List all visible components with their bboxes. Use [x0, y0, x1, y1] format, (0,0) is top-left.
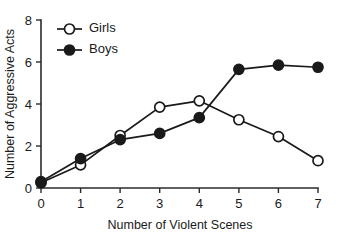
line-chart: 0 2 4 6 8 0 1 2 3 4 5 6 7 Numbe — [0, 0, 342, 238]
x-tick-label-7: 7 — [314, 196, 321, 211]
chart-canvas: 0 2 4 6 8 0 1 2 3 4 5 6 7 Numbe — [0, 0, 342, 238]
data-point-boys-2[interactable] — [115, 135, 125, 145]
chart-legend: Girls Boys — [57, 20, 118, 56]
y-axis-tick-labels: 0 2 4 6 8 — [25, 13, 32, 196]
data-point-boys-3[interactable] — [155, 128, 165, 138]
data-point-girls-6[interactable] — [273, 132, 283, 142]
legend-item-boys[interactable]: Boys — [57, 41, 118, 56]
data-point-girls-4[interactable] — [194, 96, 204, 106]
legend-label-boys: Boys — [89, 41, 118, 56]
data-point-girls-5[interactable] — [234, 115, 244, 125]
x-tick-label-2: 2 — [116, 196, 123, 211]
y-tick-label-6: 6 — [25, 55, 32, 70]
data-point-boys-6[interactable] — [273, 60, 283, 70]
legend-marker-filled-circle-icon — [65, 45, 75, 55]
data-point-boys-4[interactable] — [194, 113, 204, 123]
data-point-boys-7[interactable] — [313, 62, 323, 72]
x-tick-label-1: 1 — [77, 196, 84, 211]
data-point-girls-7[interactable] — [313, 156, 323, 166]
x-tick-label-3: 3 — [156, 196, 163, 211]
series-layer — [36, 60, 323, 188]
x-tick-label-6: 6 — [275, 196, 282, 211]
y-tick-label-8: 8 — [25, 13, 32, 28]
data-point-boys-5[interactable] — [234, 64, 244, 74]
x-tick-label-0: 0 — [37, 196, 44, 211]
y-tick-label-4: 4 — [25, 97, 32, 112]
legend-item-girls[interactable]: Girls — [57, 20, 116, 35]
legend-label-girls: Girls — [89, 20, 116, 35]
y-tick-label-0: 0 — [25, 181, 32, 196]
y-tick-label-2: 2 — [25, 139, 32, 154]
x-axis-tick-labels: 0 1 2 3 4 5 6 7 — [37, 196, 321, 211]
x-tick-label-4: 4 — [196, 196, 203, 211]
data-point-boys-1[interactable] — [76, 154, 86, 164]
y-axis-title: Number of Aggressive Acts — [3, 29, 17, 179]
x-tick-label-5: 5 — [235, 196, 242, 211]
legend-marker-open-circle-icon — [65, 24, 75, 34]
series-girls — [36, 96, 323, 188]
x-axis-title: Number of Violent Scenes — [108, 218, 253, 232]
data-point-girls-3[interactable] — [155, 102, 165, 112]
data-point-boys-0[interactable] — [36, 177, 46, 187]
